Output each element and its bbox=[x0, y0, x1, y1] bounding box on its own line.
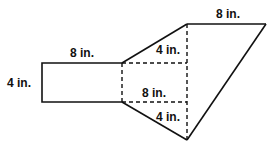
label-middle-rect-length: 8 in. bbox=[142, 86, 166, 100]
label-rect-left-height: 4 in. bbox=[7, 76, 31, 90]
label-upper-triangle-height: 4 in. bbox=[156, 43, 180, 57]
label-kite-top-length: 8 in. bbox=[216, 7, 240, 21]
composite-figure-diagram: 8 in. 4 in. 8 in. 4 in. 8 in. 4 in. bbox=[0, 0, 279, 161]
left-rectangle-outline bbox=[42, 63, 122, 102]
label-rect-top-length: 8 in. bbox=[70, 46, 94, 60]
right-slant-edge bbox=[187, 24, 266, 140]
solid-outline bbox=[42, 24, 266, 140]
label-lower-triangle-height: 4 in. bbox=[156, 110, 180, 124]
